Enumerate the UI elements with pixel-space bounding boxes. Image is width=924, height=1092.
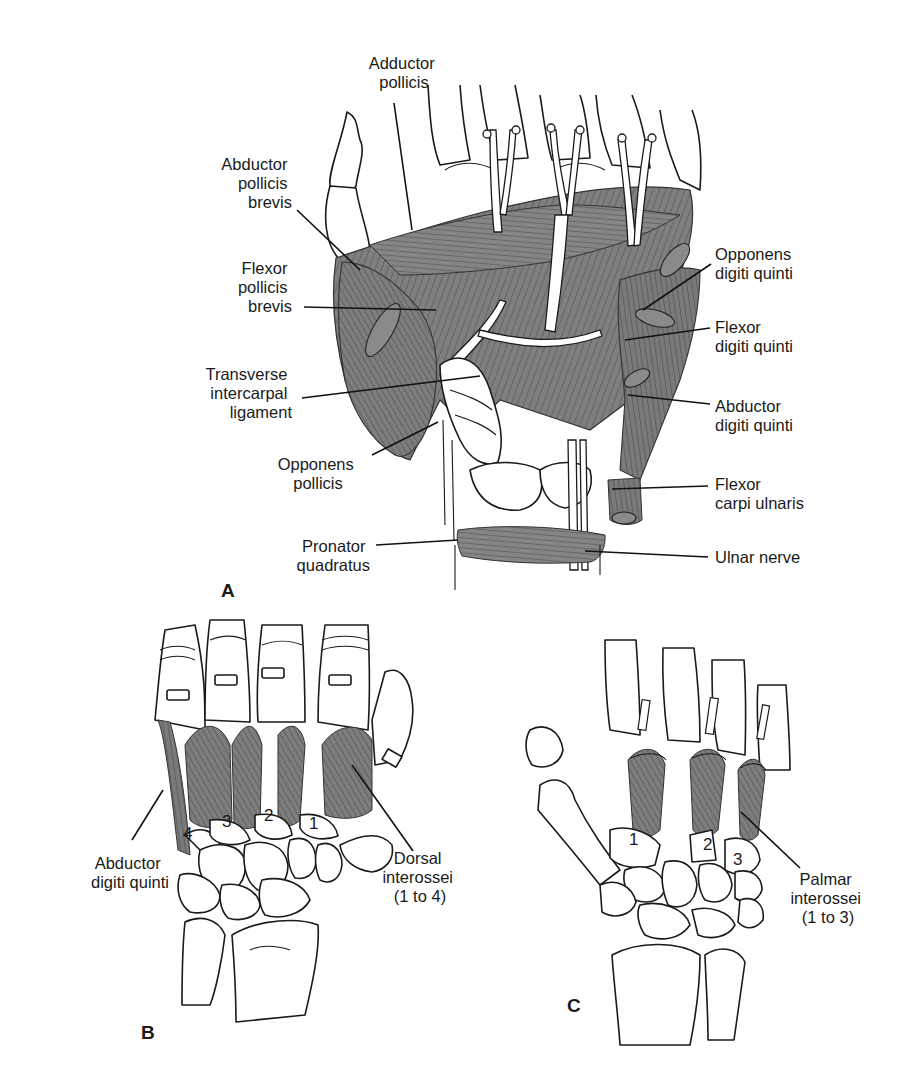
label-abductor-digiti-quinti-a: Abductor digiti quinti	[715, 397, 793, 434]
dorsal-number-2: 2	[264, 806, 273, 825]
palmar-number-3: 3	[733, 850, 742, 869]
label-dorsal-interossei: Dorsal interossei (1 to 4)	[382, 849, 457, 905]
label-opponens-digiti-quinti: Opponens digiti quinti	[715, 245, 796, 282]
label-flexor-pollicis-brevis: Flexor pollicis brevis	[238, 259, 292, 315]
palmar-number-2: 2	[703, 835, 712, 854]
label-ulnar-nerve: Ulnar nerve	[715, 548, 800, 566]
panel-a: Adductor pollicis Abductor pollicis brev…	[205, 54, 803, 601]
dorsal-number-3: 3	[222, 812, 231, 831]
leader-abductor-digiti-quinti-b	[132, 790, 163, 840]
label-opponens-pollicis: Opponens pollicis	[278, 455, 359, 492]
panel-b: 4 3 2 1 Abductor digiti quinti Dorsal in…	[91, 620, 458, 1043]
panel-a-thumb	[326, 112, 371, 262]
hand-muscles-figure: Adductor pollicis Abductor pollicis brev…	[0, 0, 924, 1092]
label-flexor-carpi-ulnaris: Flexor carpi ulnaris	[715, 475, 804, 512]
panel-letter-b: B	[141, 1022, 155, 1043]
panel-b-forearm	[182, 918, 318, 1022]
panel-a-finger-bones	[428, 85, 701, 190]
label-adductor-pollicis: Adductor pollicis	[369, 54, 440, 91]
panel-letter-a: A	[221, 580, 235, 601]
label-abductor-digiti-quinti-b: Abductor digiti quinti	[91, 854, 169, 891]
label-transverse-intercarpal-ligament: Transverse intercarpal ligament	[205, 365, 292, 421]
label-pronator-quadratus: Pronator quadratus	[297, 537, 370, 574]
label-palmar-interossei: Palmar interossei (1 to 3)	[790, 870, 865, 926]
panel-c-interossei	[628, 749, 766, 840]
panel-c-carpals	[600, 828, 763, 939]
label-flexor-digiti-quinti: Flexor digiti quinti	[715, 318, 793, 355]
palmar-number-1: 1	[629, 830, 638, 849]
dorsal-number-1: 1	[309, 814, 318, 833]
panel-b-carpals	[178, 836, 392, 920]
panel-letter-c: C	[567, 995, 581, 1016]
label-abductor-pollicis-brevis: Abductor pollicis brevis	[221, 155, 292, 211]
panel-c-forearm	[612, 944, 745, 1045]
dorsal-number-4: 4	[183, 824, 192, 843]
panel-c: 1 2 3 Palmar interossei (1 to 3) C	[526, 640, 866, 1045]
